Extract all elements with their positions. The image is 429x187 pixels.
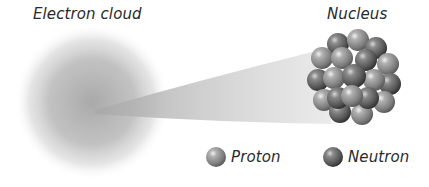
legend-proton-label: Proton <box>231 148 281 166</box>
nucleus-cluster <box>307 29 401 125</box>
neutron-sphere-icon <box>323 147 343 167</box>
electron-cloud-label: Electron cloud <box>33 5 142 23</box>
proton-sphere-icon <box>206 147 226 167</box>
nucleus-label: Nucleus <box>327 5 387 23</box>
legend-neutron-label: Neutron <box>348 148 409 166</box>
